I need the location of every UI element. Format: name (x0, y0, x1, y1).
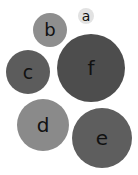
bubble-label: b (44, 21, 55, 39)
bubble-f: f (57, 34, 125, 102)
bubble-e: e (72, 108, 132, 168)
bubble-d: d (17, 99, 69, 151)
bubble-label: f (87, 58, 94, 78)
bubble-label: a (82, 9, 91, 23)
bubble-c: c (6, 50, 50, 94)
bubble-label: d (37, 115, 50, 135)
bubble-label: e (96, 128, 108, 148)
bubble-b: b (33, 13, 67, 47)
bubble-a: a (78, 8, 94, 24)
bubble-label: c (23, 63, 33, 82)
